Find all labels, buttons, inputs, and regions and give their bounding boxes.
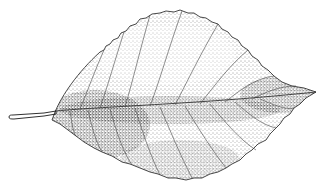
leaf-blade — [0, 0, 325, 189]
leaf-drawing — [0, 0, 325, 189]
leaf-illustration — [0, 0, 325, 189]
petiole — [9, 111, 56, 119]
